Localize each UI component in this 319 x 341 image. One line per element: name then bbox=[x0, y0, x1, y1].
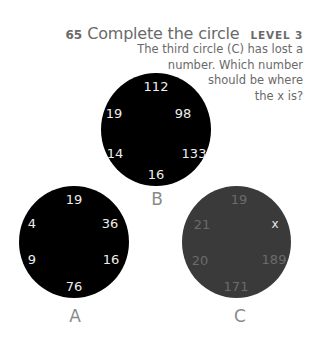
circle-b-top: 112 bbox=[144, 79, 169, 94]
circle-b: 112 98 133 16 14 19 bbox=[101, 73, 211, 186]
circle-c-missing-x: x bbox=[271, 217, 278, 231]
circle-b-top-right: 98 bbox=[175, 106, 192, 121]
circle-c: 19 x 189 171 20 21 bbox=[182, 186, 291, 298]
description-line: The third circle (C) has lost a bbox=[133, 42, 303, 58]
circle-a: 19 36 16 76 9 4 bbox=[19, 186, 129, 298]
circle-a-top-left: 4 bbox=[28, 216, 36, 231]
circle-a-bottom-left: 9 bbox=[28, 252, 36, 267]
description-line: number. Which number bbox=[133, 58, 303, 74]
circle-c-label: C bbox=[234, 306, 246, 326]
puzzle-title: 65 Complete the circle LEVEL 3 bbox=[65, 24, 303, 43]
circle-c-bottom: 171 bbox=[224, 279, 249, 294]
circle-a-top-right: 36 bbox=[102, 216, 119, 231]
puzzle-number: 65 bbox=[65, 28, 82, 42]
circle-a-bottom-right: 16 bbox=[103, 252, 120, 267]
circle-b-top-left: 19 bbox=[106, 106, 123, 121]
circle-c-bottom-right: 189 bbox=[262, 252, 287, 267]
circle-b-bottom-left: 14 bbox=[107, 146, 124, 161]
circle-c-top: 19 bbox=[231, 192, 248, 207]
circle-b-bottom: 16 bbox=[148, 167, 165, 182]
circle-b-label: B bbox=[151, 189, 163, 209]
circle-a-label: A bbox=[69, 306, 81, 326]
level-badge: LEVEL 3 bbox=[251, 29, 303, 41]
circle-c-top-left: 21 bbox=[194, 217, 211, 232]
circle-a-bottom: 76 bbox=[66, 279, 83, 294]
puzzle-heading: Complete the circle bbox=[87, 24, 239, 43]
circle-b-bottom-right: 133 bbox=[182, 146, 207, 161]
circle-a-top: 19 bbox=[66, 192, 83, 207]
circle-c-bottom-left: 20 bbox=[192, 253, 209, 268]
